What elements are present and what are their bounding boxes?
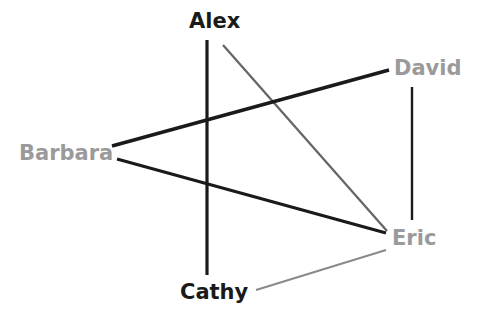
- graph-node-barbara[interactable]: Barbara: [19, 143, 113, 164]
- graph-node-eric[interactable]: Eric: [392, 228, 436, 249]
- graph-node-cathy[interactable]: Cathy: [180, 282, 248, 303]
- graph-edge-cathy-eric[interactable]: [256, 250, 386, 290]
- graph-node-alex[interactable]: Alex: [189, 11, 240, 32]
- graph-canvas: AlexBarbaraCathyDavidEric: [0, 0, 482, 326]
- graph-edge-barbara-eric[interactable]: [117, 159, 386, 233]
- graph-node-david[interactable]: David: [394, 58, 462, 79]
- graph-edge-barbara-david[interactable]: [112, 70, 389, 146]
- graph-edge-alex-eric[interactable]: [223, 45, 387, 231]
